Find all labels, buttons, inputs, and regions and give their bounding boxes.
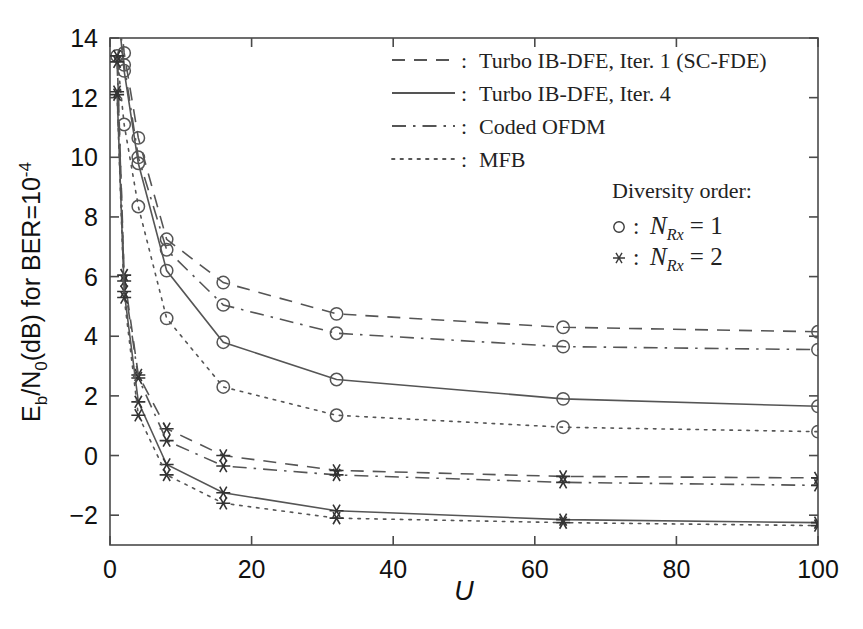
- ylabel-db: (dB) for BER=10: [17, 177, 45, 361]
- x-tick-label: 0: [103, 555, 117, 583]
- nrx1-eq: = 1: [684, 212, 723, 239]
- y-tick-label: −2: [69, 501, 98, 529]
- ylabel-b: b: [32, 396, 51, 405]
- y-tick-label: 0: [84, 442, 98, 470]
- ber-vs-u-chart: 020406080100−202468101214 U Eb/N0(dB) fo…: [0, 0, 863, 629]
- nrx2-eq: = 2: [684, 243, 723, 270]
- nrx1-n: N: [649, 212, 668, 239]
- y-tick-label: 4: [84, 322, 98, 350]
- legend-label: Coded OFDM: [479, 114, 606, 139]
- legend-colon: :: [461, 147, 467, 172]
- legend-label: Turbo IB-DFE, Iter. 1 (SC-FDE): [479, 48, 767, 73]
- x-tick-label: 80: [662, 555, 690, 583]
- y-tick-label: 8: [84, 203, 98, 231]
- x-tick-label: 100: [797, 555, 839, 583]
- legend-nrx1-label: NRx = 1: [649, 212, 723, 243]
- legend-colon-2: :: [633, 245, 639, 270]
- y-tick-label: 2: [84, 382, 98, 410]
- nrx2-sub: Rx: [666, 257, 684, 274]
- diversity-order-title: Diversity order:: [612, 178, 752, 203]
- y-tick-label: 10: [70, 143, 98, 171]
- legend-colon: :: [461, 81, 467, 106]
- ylabel-exp: -4: [16, 162, 35, 177]
- legend-colon-1: :: [633, 214, 639, 239]
- y-tick-label: 14: [70, 24, 98, 52]
- x-tick-label: 60: [521, 555, 549, 583]
- legend-nrx2-label: NRx = 2: [649, 243, 723, 274]
- legend-label: MFB: [479, 147, 525, 172]
- legend-colon: :: [461, 48, 467, 73]
- legend-colon: :: [461, 114, 467, 139]
- figure-container: 020406080100−202468101214 U Eb/N0(dB) fo…: [0, 0, 863, 629]
- nrx1-sub: Rx: [666, 226, 684, 243]
- y-tick-label: 6: [84, 263, 98, 291]
- x-tick-label: 40: [379, 555, 407, 583]
- x-tick-label: 20: [238, 555, 266, 583]
- ylabel-zero: 0: [32, 361, 51, 370]
- nrx2-n: N: [649, 243, 668, 270]
- x-axis-label: U: [454, 576, 474, 606]
- ylabel-e: E: [17, 405, 45, 422]
- ylabel-slash: /N: [17, 371, 45, 396]
- y-tick-label: 12: [70, 84, 98, 112]
- legend-label: Turbo IB-DFE, Iter. 4: [479, 81, 671, 106]
